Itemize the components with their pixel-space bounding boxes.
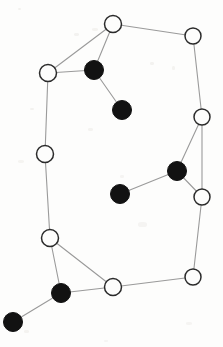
graph-node-filled [111,185,130,204]
node-layer [4,16,211,332]
graph-edge [50,238,113,287]
graph-figure [0,0,223,347]
graph-node-filled [168,162,187,181]
graph-edge [45,73,48,154]
graph-node-open [105,16,122,33]
graph-edge [113,24,193,36]
graph-node-open [185,269,201,285]
graph-node-filled [4,313,23,332]
graph-node-open [194,189,210,205]
graph-node-filled [113,101,132,120]
graph-node-filled [85,61,104,80]
graph-node-open [40,65,57,82]
graph-node-open [105,279,122,296]
graph-node-open [37,146,54,163]
graph-edge [113,277,193,287]
graph-canvas [0,0,223,347]
graph-node-open [185,28,201,44]
graph-node-open [194,109,210,125]
graph-edge [45,154,50,238]
graph-edge [193,197,202,277]
graph-node-filled [52,284,71,303]
graph-edge [193,36,202,117]
graph-node-open [42,230,59,247]
